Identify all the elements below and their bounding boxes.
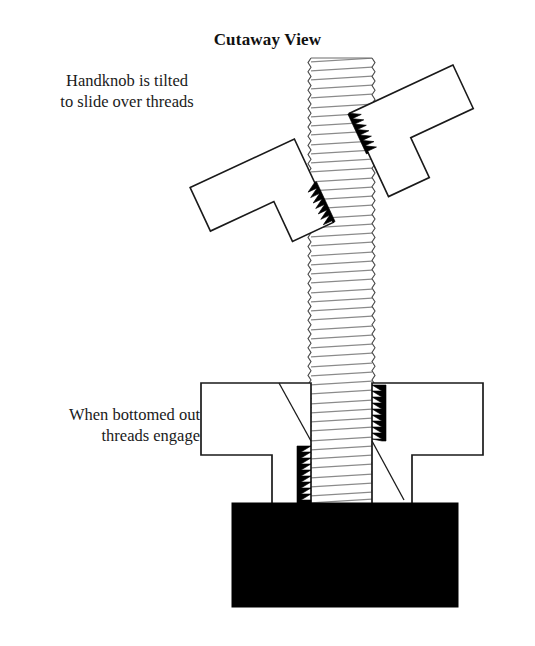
technical-drawing-canvas xyxy=(0,0,535,646)
base-block xyxy=(232,503,458,607)
bottomed-knob-left-outline xyxy=(201,383,311,504)
bottomed-knob-right-outline xyxy=(372,383,483,504)
cutaway-diagram: Cutaway View Handknob is tilted to slide… xyxy=(0,0,535,646)
